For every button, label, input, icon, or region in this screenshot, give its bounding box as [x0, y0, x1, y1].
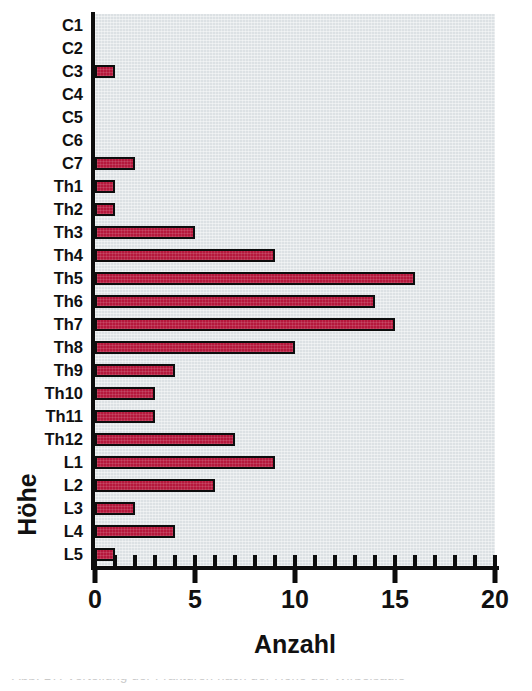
y-axis-tick-label: Th9 — [24, 359, 88, 382]
bar — [95, 364, 175, 377]
bar-chart-figure: Höhe C1C2C3C4C5C6C7Th1Th2Th3Th4Th5Th6Th7… — [0, 0, 532, 691]
y-axis-tick-label: Th3 — [24, 221, 88, 244]
bar — [95, 295, 375, 308]
y-axis-spine — [91, 12, 95, 568]
bar-row — [95, 129, 495, 152]
bar-row — [95, 474, 495, 497]
y-axis-tick-label: C1 — [24, 14, 88, 37]
x-axis-major-tick — [493, 570, 498, 583]
x-axis-spine — [91, 566, 499, 570]
y-axis-tick-label: Th11 — [24, 405, 88, 428]
bar-row — [95, 382, 495, 405]
bar — [95, 65, 115, 78]
bar — [95, 387, 155, 400]
x-axis-tick-label: 5 — [160, 586, 230, 612]
y-axis-tick-label: Th6 — [24, 290, 88, 313]
bar — [95, 203, 115, 216]
y-axis-tick-label: C6 — [24, 129, 88, 152]
x-axis-major-tick — [193, 570, 198, 583]
bar — [95, 525, 175, 538]
bars-layer — [95, 14, 495, 566]
bar-row — [95, 520, 495, 543]
y-axis-tick-label: Th2 — [24, 198, 88, 221]
y-axis-tick-label: C2 — [24, 37, 88, 60]
plot-frame — [95, 14, 495, 566]
x-axis-major-tick — [393, 570, 398, 583]
x-axis-tick-label: 20 — [460, 586, 530, 612]
bar-row — [95, 336, 495, 359]
x-axis-tick-label: 10 — [260, 586, 330, 612]
x-axis-major-tick — [93, 570, 98, 583]
bar — [95, 157, 135, 170]
y-axis-tick-label: Th1 — [24, 175, 88, 198]
x-axis-tick-label: 0 — [60, 586, 130, 612]
y-axis-tick-label: L3 — [24, 497, 88, 520]
bar-row — [95, 497, 495, 520]
bar — [95, 180, 115, 193]
y-axis-tick-label: L2 — [24, 474, 88, 497]
bar — [95, 410, 155, 423]
figure-caption-cutoff: Abb. 17: Verteilung der Frakturen nach d… — [0, 679, 532, 691]
y-axis-tick-label: L4 — [24, 520, 88, 543]
x-axis-tick-label: 15 — [360, 586, 430, 612]
bar-row — [95, 198, 495, 221]
bar-row — [95, 106, 495, 129]
y-axis-tick-label: Th4 — [24, 244, 88, 267]
y-axis-tick-label: L5 — [24, 543, 88, 566]
x-axis-major-tick — [293, 570, 298, 583]
bar — [95, 479, 215, 492]
x-axis-major-ticks — [95, 570, 495, 583]
bar-row — [95, 14, 495, 37]
y-axis-tick-labels: C1C2C3C4C5C6C7Th1Th2Th3Th4Th5Th6Th7Th8Th… — [24, 14, 88, 566]
bar-row — [95, 313, 495, 336]
bar — [95, 502, 135, 515]
y-axis-tick-label: Th5 — [24, 267, 88, 290]
bar-row — [95, 267, 495, 290]
y-axis-tick-label: Th8 — [24, 336, 88, 359]
bar — [95, 456, 275, 469]
y-axis-tick-label: C3 — [24, 60, 88, 83]
y-axis-tick-label: C4 — [24, 83, 88, 106]
x-axis-tick-labels: 05101520 — [95, 586, 495, 616]
x-axis-title: Anzahl — [95, 630, 495, 659]
bar-row — [95, 290, 495, 313]
bar — [95, 548, 115, 561]
bar-row — [95, 221, 495, 244]
y-axis-tick-label: L1 — [24, 451, 88, 474]
bar — [95, 433, 235, 446]
plot-area — [95, 14, 495, 566]
y-axis-tick-label: Th12 — [24, 428, 88, 451]
bar — [95, 226, 195, 239]
bar-row — [95, 405, 495, 428]
bar — [95, 249, 275, 262]
bar-row — [95, 451, 495, 474]
bar-row — [95, 152, 495, 175]
y-axis-tick-label: C7 — [24, 152, 88, 175]
bar-row — [95, 543, 495, 566]
y-axis-tick-label: Th10 — [24, 382, 88, 405]
bar-row — [95, 244, 495, 267]
bar-row — [95, 83, 495, 106]
bar — [95, 318, 395, 331]
bar-row — [95, 37, 495, 60]
bar-row — [95, 175, 495, 198]
bar — [95, 341, 295, 354]
bar — [95, 272, 415, 285]
y-axis-tick-label: C5 — [24, 106, 88, 129]
bar-row — [95, 428, 495, 451]
figure-caption-text: Abb. 17: Verteilung der Frakturen nach d… — [0, 679, 532, 683]
bar-row — [95, 359, 495, 382]
bar-row — [95, 60, 495, 83]
y-axis-tick-label: Th7 — [24, 313, 88, 336]
